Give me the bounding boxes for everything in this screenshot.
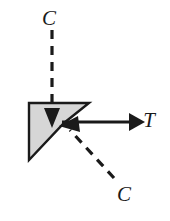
t-label: T: [143, 108, 156, 132]
force-diagram-canvas: C C T: [0, 0, 170, 221]
force-diagram-figure: C C T: [0, 0, 170, 221]
c-top-label: C: [42, 6, 57, 30]
c-bottom-label: C: [117, 182, 132, 206]
